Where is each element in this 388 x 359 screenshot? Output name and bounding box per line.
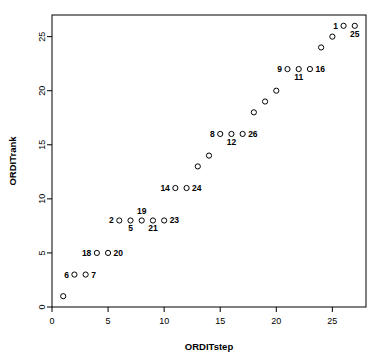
x-tick-label: 10 <box>159 316 169 326</box>
y-tick-label: 5 <box>37 250 47 255</box>
x-tick-label: 5 <box>106 316 111 326</box>
data-point-label: 6 <box>64 270 69 280</box>
data-point-label: 14 <box>160 183 170 193</box>
x-tick-label: 20 <box>271 316 281 326</box>
data-point-label: 26 <box>248 129 258 139</box>
y-axis-label: ORDITrank <box>7 136 18 186</box>
data-point-label: 8 <box>210 129 215 139</box>
x-tick-label: 0 <box>49 316 54 326</box>
plot-canvas: 0510152025 0510152025 671820251921231424… <box>0 0 388 359</box>
data-point-label: 25 <box>350 29 360 39</box>
data-point-label: 23 <box>170 215 180 225</box>
data-point-label: 16 <box>315 64 325 74</box>
x-axis-label: ORDITstep <box>185 341 234 352</box>
data-point-label: 24 <box>192 183 202 193</box>
x-tick-label: 15 <box>215 316 225 326</box>
data-point-label: 12 <box>227 137 237 147</box>
data-point-label: 1 <box>333 21 338 31</box>
data-point-label: 11 <box>294 72 303 82</box>
data-point-label: 19 <box>137 206 147 216</box>
y-tick-label: 10 <box>37 194 47 204</box>
data-point-label: 2 <box>109 215 114 225</box>
data-point-label: 7 <box>91 270 96 280</box>
y-tick-label: 15 <box>37 140 47 150</box>
figure-background <box>0 0 388 359</box>
y-tick-label: 0 <box>37 304 47 309</box>
y-tick-label: 25 <box>37 32 47 42</box>
data-point-label: 18 <box>82 248 92 258</box>
data-point-label: 5 <box>128 223 133 233</box>
scatter-plot-figure: 0510152025 0510152025 671820251921231424… <box>0 0 388 359</box>
data-point-label: 20 <box>114 248 124 258</box>
x-tick-label: 25 <box>327 316 337 326</box>
data-point-label: 21 <box>148 223 158 233</box>
y-tick-label: 20 <box>37 86 47 96</box>
data-point-label: 9 <box>277 64 282 74</box>
